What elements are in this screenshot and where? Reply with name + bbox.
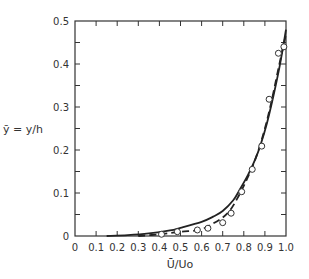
x-tick-label: 0.8	[236, 242, 252, 253]
data-point-marker	[266, 96, 272, 102]
y-tick-label: 0.5	[53, 16, 69, 27]
plot-frame	[75, 21, 286, 236]
data-series	[107, 30, 287, 238]
dashed-curve	[138, 34, 286, 236]
data-point-marker	[249, 166, 255, 172]
data-point-marker	[174, 229, 180, 235]
x-tick-label: 0.4	[151, 242, 167, 253]
y-tick-label: 0.3	[53, 102, 69, 113]
data-point-marker	[220, 220, 226, 226]
y-tick-label: 0.2	[53, 145, 69, 156]
data-point-marker	[281, 44, 287, 50]
x-tick-label: 0	[72, 242, 78, 253]
data-point-marker	[259, 143, 265, 149]
y-axis-label: ȳ = y/h	[3, 123, 43, 136]
data-point-marker	[205, 225, 211, 231]
data-point-marker	[275, 50, 281, 56]
x-tick-label: 0.2	[109, 242, 125, 253]
x-tick-label: 1.0	[278, 242, 294, 253]
axis-ticks	[75, 21, 286, 236]
chart: 00.10.20.30.40.50.60.70.80.91.0 00.10.20…	[0, 0, 309, 279]
x-tick-label: 0.7	[215, 242, 231, 253]
x-axis-label: Ū/Uo	[167, 258, 194, 271]
y-tick-labels: 00.10.20.30.40.5	[53, 16, 69, 242]
x-tick-labels: 00.10.20.30.40.50.60.70.80.91.0	[72, 242, 294, 253]
data-point-marker	[194, 227, 200, 233]
solid-curve	[107, 30, 286, 236]
x-tick-label: 0.3	[130, 242, 146, 253]
axes-box	[75, 21, 286, 236]
y-tick-label: 0	[63, 231, 69, 242]
data-point-marker	[228, 210, 234, 216]
x-tick-label: 0.5	[173, 242, 189, 253]
y-tick-label: 0.1	[53, 188, 69, 199]
y-tick-label: 0.4	[53, 59, 69, 70]
x-tick-label: 0.6	[194, 242, 210, 253]
x-tick-label: 0.1	[88, 242, 104, 253]
data-point-marker	[159, 231, 165, 237]
data-point-marker	[239, 189, 245, 195]
x-tick-label: 0.9	[257, 242, 273, 253]
